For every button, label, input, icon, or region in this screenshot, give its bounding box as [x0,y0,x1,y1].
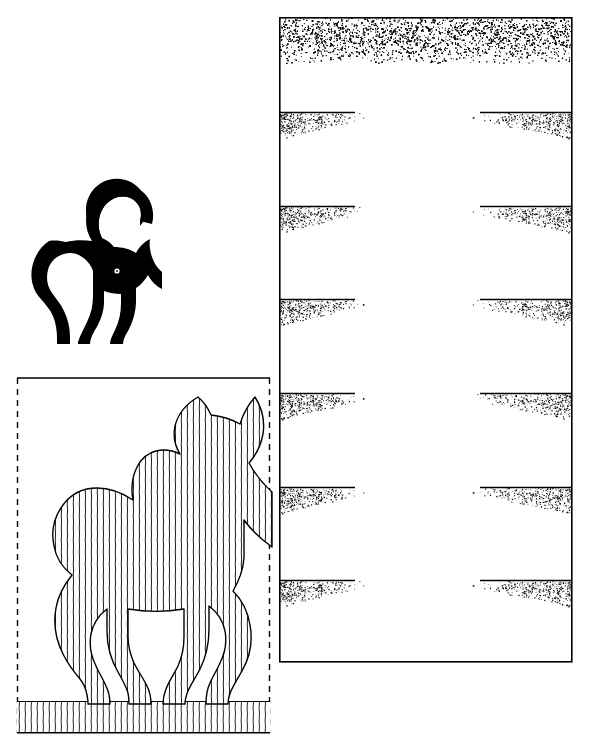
silhouette-cat-tail [86,179,147,238]
figure-canvas [0,0,592,752]
stipple-panel-border [280,18,572,662]
silhouette-cat-pupil [116,270,118,272]
stipple-panel [279,17,573,662]
divider-rules [279,113,572,581]
stipple-panel-contents [279,17,573,607]
stipple-dots [279,17,573,607]
ground-strip [17,701,270,733]
hatched-cat-panel [10,370,280,733]
ground-strip-fill [17,701,270,733]
silhouette-cat-figure [31,179,162,344]
figure-root [0,0,592,752]
